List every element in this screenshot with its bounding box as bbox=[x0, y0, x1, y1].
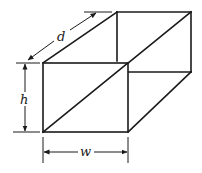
depth-dimension: d bbox=[16, 12, 112, 63]
depth-label: d bbox=[57, 29, 65, 44]
depth-arrow-upper bbox=[70, 13, 96, 30]
front-face bbox=[43, 63, 128, 132]
width-label: w bbox=[80, 144, 91, 159]
box-dimension-diagram: d h w bbox=[0, 0, 202, 173]
top-left-depth-edge bbox=[43, 12, 117, 63]
height-dimension: h bbox=[13, 64, 40, 132]
bottom-right-depth-edge bbox=[128, 72, 191, 132]
height-label: h bbox=[20, 92, 28, 107]
width-dimension: w bbox=[43, 137, 128, 163]
top-right-depth-edge bbox=[128, 12, 191, 63]
diagram-canvas: d h w bbox=[0, 0, 202, 173]
